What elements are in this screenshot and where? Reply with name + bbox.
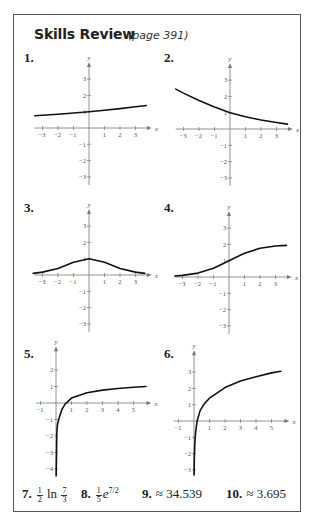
answer-7: 7.12 ln 73 [22,486,68,504]
x-tick-label: −1 [210,280,217,287]
y-tick-label: −2 [79,157,86,164]
x-tick-label: −1 [175,424,182,431]
x-arrow-icon [146,401,151,405]
x-tick-label: −2 [54,278,61,285]
y-tick-label: 2 [188,385,191,392]
x-tick-label: −2 [54,131,61,138]
y-axis-label: y [87,54,92,62]
x-tick-label: 5 [132,406,135,413]
y-tick-label: 2 [224,93,227,100]
x-tick-label: −1 [37,406,44,413]
x-tick-label: −3 [180,132,187,139]
x-tick-label: 1 [103,131,106,138]
x-arrow-icon [287,275,292,279]
y-tick-label: 2 [83,92,86,99]
x-axis-label: x [154,125,159,133]
y-tick-label: −2 [220,158,227,165]
x-tick-label: 3 [239,424,242,431]
y-tick-label: 3 [224,76,227,83]
graph-4: xy−3−2−1123−3−2−1123 [175,203,299,334]
function-curve [35,106,147,116]
graph-2: xy−3−2−1123−3−2−1123 [176,55,300,186]
x-tick-label: 1 [243,280,246,287]
x-tick-label: −2 [194,280,201,287]
answer-9: 9.≈ 34.539 [142,486,202,502]
y-tick-label: −4 [46,465,54,472]
y-arrow-icon [87,209,91,214]
y-axis-label: y [87,201,92,209]
y-tick-label: 3 [188,368,191,375]
x-tick-label: 1 [244,132,247,139]
y-tick-label: −1 [79,288,86,295]
x-arrow-icon [147,126,152,130]
y-tick-label: −1 [46,416,53,423]
x-tick-label: 2 [118,278,121,285]
function-curve [176,89,288,124]
graph-3: xy−3−2−1123−3−2−1123 [33,201,159,332]
x-tick-label: 4 [254,424,258,431]
x-axis-label: x [153,400,158,408]
y-tick-label: −1 [220,142,227,149]
x-tick-label: 3 [101,406,104,413]
graphs-canvas: xy−3−2−1123−3−2−1123xy−3−2−1123−3−2−1123… [0,0,311,520]
y-tick-label: 3 [223,224,226,231]
answer-8: 8.15e7/2 [81,486,119,504]
x-tick-label: 4 [116,406,120,413]
y-tick-label: 1 [188,401,191,408]
x-arrow-icon [288,127,293,131]
x-tick-label: 1 [103,278,106,285]
y-tick-label: −3 [46,449,53,456]
graph-5: xy−112345−4−3−2−112 [36,338,159,477]
x-tick-label: −2 [195,132,202,139]
function-curve [56,387,146,476]
x-tick-label: 2 [258,280,261,287]
x-tick-label: 2 [223,424,226,431]
y-tick-label: −1 [184,434,191,441]
y-tick-label: −3 [220,174,227,181]
x-tick-label: −1 [211,132,218,139]
y-tick-label: −1 [79,141,86,148]
x-tick-label: −3 [39,131,46,138]
x-tick-label: −3 [179,280,186,287]
y-arrow-icon [227,211,231,216]
x-tick-label: 3 [275,132,278,139]
y-tick-label: −3 [219,322,226,329]
y-tick-label: −3 [79,173,86,180]
y-tick-label: 1 [83,255,86,262]
y-arrow-icon [228,63,232,68]
y-tick-label: −1 [219,290,226,297]
y-arrow-icon [54,346,58,351]
x-axis-label: x [154,272,159,280]
answers-row: 7.12 ln 73 8.15e7/2 9.≈ 34.539 10.≈ 3.69… [22,486,302,508]
y-tick-label: 1 [50,383,53,390]
x-tick-label: 1 [70,406,73,413]
x-tick-label: 3 [274,280,277,287]
x-tick-label: −3 [39,278,46,285]
y-tick-label: −2 [46,432,53,439]
y-arrow-icon [192,350,196,355]
x-tick-label: 1 [208,424,211,431]
y-tick-label: −3 [184,466,191,473]
y-axis-label: y [227,203,232,211]
y-arrow-icon [87,62,91,67]
y-tick-label: 2 [223,241,226,248]
graph-6: xy−112345−3−2−1123 [174,342,297,476]
x-tick-label: 2 [118,131,121,138]
x-axis-label: x [294,274,299,282]
y-tick-label: −2 [79,304,86,311]
y-axis-label: y [228,55,233,63]
x-tick-label: 3 [134,278,137,285]
x-tick-label: 2 [259,132,262,139]
y-tick-label: −2 [184,450,191,457]
y-axis-label: y [192,342,197,350]
answer-10: 10.≈ 3.695 [226,486,286,502]
function-curve [175,245,287,276]
y-tick-label: 2 [83,239,86,246]
x-tick-label: 5 [270,424,273,431]
y-tick-label: 3 [83,75,86,82]
y-tick-label: −2 [219,306,226,313]
x-arrow-icon [284,419,289,423]
x-tick-label: −1 [70,278,77,285]
x-arrow-icon [147,273,152,277]
y-tick-label: −3 [79,320,86,327]
